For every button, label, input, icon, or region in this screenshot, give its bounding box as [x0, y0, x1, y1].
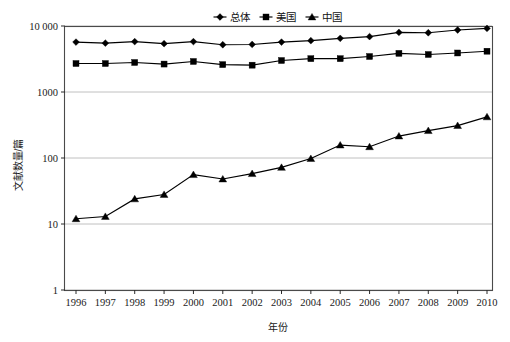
y-tick-label-100: 100: [42, 153, 58, 164]
x-tick-label-2000: 2000: [183, 297, 204, 308]
x-tick-label-2008: 2008: [418, 297, 439, 308]
x-tick-label-1996: 1996: [66, 297, 87, 308]
legend-label-总体: 总体: [230, 11, 251, 23]
y-tick-label-1000: 1000: [37, 87, 58, 98]
data-point-美国-2002: [249, 62, 255, 68]
legend-marker-美国: [263, 14, 269, 20]
legend-label-美国: 美国: [276, 11, 296, 23]
data-point-美国-2008: [425, 51, 431, 57]
x-tick-label-2004: 2004: [300, 297, 322, 308]
x-tick-label-2003: 2003: [271, 297, 292, 308]
x-tick-label-1999: 1999: [154, 297, 175, 308]
chart-canvas: 110100100010 000 19961997199819992000200…: [0, 0, 510, 342]
chart-legend: 总体美国中国: [214, 11, 342, 23]
data-point-美国-2009: [455, 50, 461, 56]
x-tick-label-2005: 2005: [330, 297, 351, 308]
data-point-美国-2003: [279, 58, 285, 64]
x-tick-labels: 1996199719981999200020012002200320042005…: [66, 297, 498, 308]
legend-label-中国: 中国: [322, 11, 342, 23]
data-point-美国-2010: [484, 48, 490, 54]
data-point-美国-1996: [73, 61, 79, 67]
x-tick-label-2010: 2010: [477, 297, 498, 308]
data-point-美国-1997: [102, 61, 108, 67]
data-point-美国-2007: [396, 50, 402, 56]
x-tick-label-2001: 2001: [212, 297, 233, 308]
x-tick-label-1998: 1998: [124, 297, 145, 308]
x-tick-label-2002: 2002: [242, 297, 263, 308]
data-point-美国-2005: [337, 56, 343, 62]
x-tick-label-2007: 2007: [388, 297, 409, 308]
y-tick-label-10000: 10 000: [29, 21, 58, 32]
x-axis-title: 年份: [268, 321, 288, 333]
x-tick-label-2009: 2009: [447, 297, 468, 308]
x-tick-label-2006: 2006: [359, 297, 380, 308]
line-chart: 110100100010 000 19961997199819992000200…: [0, 0, 510, 342]
y-axis-title: 文献数量/篇: [12, 139, 24, 192]
data-point-美国-1999: [161, 61, 167, 67]
data-point-美国-2006: [367, 54, 373, 60]
data-point-美国-2000: [190, 58, 196, 64]
data-point-美国-2001: [220, 62, 226, 68]
y-tick-label-10: 10: [48, 219, 59, 230]
data-point-美国-2004: [308, 56, 314, 62]
data-point-美国-1998: [132, 59, 138, 65]
x-tick-label-1997: 1997: [95, 297, 116, 308]
y-tick-label-1: 1: [53, 285, 58, 296]
